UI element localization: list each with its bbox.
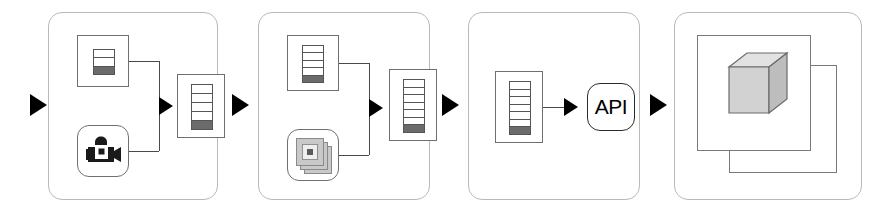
- list-row-highlighted: [192, 121, 212, 129]
- list-row: [94, 50, 114, 58]
- result-list-icon: [403, 79, 425, 133]
- stage-2-metadata-frame: [287, 35, 339, 91]
- list-row: [404, 118, 424, 126]
- list-row: [192, 85, 212, 94]
- list-row: [404, 95, 424, 103]
- stage1-to-stage2-arrow: [232, 94, 249, 116]
- source-list-icon: [509, 81, 531, 135]
- image-stack-icon: [296, 138, 334, 176]
- list-row: [510, 105, 530, 113]
- stage-2-panel[interactable]: [258, 12, 430, 200]
- list-row: [303, 68, 323, 75]
- list-row: [303, 46, 323, 53]
- list-row: [303, 53, 323, 60]
- list-row: [404, 88, 424, 96]
- stage-3-api-arrow: [564, 98, 578, 116]
- pipeline-diagram: API: [0, 0, 885, 211]
- connector-line-bottom: [339, 155, 369, 156]
- list-row: [510, 120, 530, 128]
- stage-1-camera-frame: [77, 125, 129, 177]
- list-row: [192, 112, 212, 121]
- stage2-to-stage3-arrow: [442, 94, 459, 116]
- connector-line-top: [129, 61, 159, 62]
- stage-1-metadata-frame: [77, 35, 129, 87]
- list-row: [404, 80, 424, 88]
- stage-3-source-frame: [495, 71, 543, 143]
- stage-2-image-stack-frame: [287, 129, 339, 181]
- list-row: [404, 103, 424, 111]
- list-row: [303, 61, 323, 68]
- list-row-highlighted: [510, 127, 530, 134]
- stage-1-merge-arrow: [159, 97, 173, 115]
- api-label: API: [595, 95, 627, 119]
- api-box[interactable]: API: [587, 83, 635, 131]
- stage-1-result-frame: [177, 74, 225, 138]
- list-row: [192, 94, 212, 103]
- list-row: [510, 90, 530, 98]
- stage3-to-stage4-arrow: [650, 94, 667, 116]
- list-row: [94, 58, 114, 66]
- list-row: [510, 82, 530, 90]
- list-row: [404, 110, 424, 118]
- stage-4-panel[interactable]: [674, 12, 862, 200]
- stage-2-result-frame: [389, 69, 437, 141]
- input-arrow: [30, 94, 47, 116]
- video-camera-icon: [86, 136, 122, 168]
- list-row-highlighted: [303, 76, 323, 82]
- list-row: [510, 97, 530, 105]
- stage-3-panel[interactable]: API: [468, 12, 640, 200]
- list-row: [510, 112, 530, 120]
- connector-line-top: [339, 63, 369, 64]
- metadata-list-icon: [93, 49, 115, 75]
- stage-2-merge-arrow: [369, 99, 383, 117]
- stack-image-dot: [307, 149, 313, 155]
- metadata-list-icon: [302, 45, 324, 83]
- connector-line-bottom: [129, 151, 159, 152]
- list-row-highlighted: [94, 67, 114, 74]
- list-row: [192, 103, 212, 112]
- result-list-icon: [191, 84, 213, 130]
- cube-icon: [727, 51, 789, 117]
- stage-1-panel[interactable]: [48, 12, 218, 200]
- list-row-highlighted: [404, 125, 424, 132]
